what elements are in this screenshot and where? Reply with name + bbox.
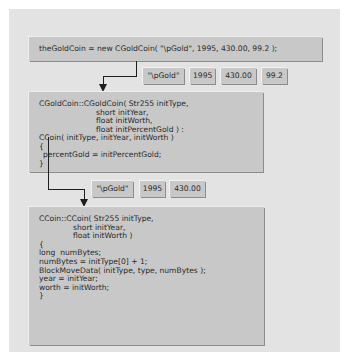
connector-line-1a — [136, 61, 137, 76]
arg-chip-year: 1995 — [140, 181, 165, 197]
code-line: } — [39, 292, 206, 301]
code-line: float initWorth ) — [39, 232, 206, 241]
arg-chip-worth: 430.00 — [221, 68, 256, 84]
arg-chip-type: "\pGold" — [92, 181, 133, 197]
code-line: } — [39, 160, 174, 169]
code-line: percentGold = initPercentGold; — [39, 151, 174, 160]
call-statement-text: theGoldCoin = new CGoldCoin( "\pGold", 1… — [39, 45, 277, 54]
arg-chip-worth: 430.00 — [170, 181, 205, 197]
connector-line-2b — [48, 189, 85, 190]
call-statement-box: theGoldCoin = new CGoldCoin( "\pGold", 1… — [29, 37, 322, 61]
ccoin-constructor-box: CCoin::CCoin( Str255 initType, short ini… — [29, 207, 264, 345]
connector-line-1c — [103, 76, 104, 84]
arrow-down-icon — [80, 199, 88, 207]
code-line: worth = initWorth; — [39, 284, 206, 293]
arrow-down-icon — [99, 84, 107, 92]
arg-chip-percent: 99.2 — [262, 68, 287, 84]
connector-line-1b — [103, 76, 137, 77]
code-line: CCoin( initType, initYear, initWorth ) — [39, 134, 174, 143]
cgoldcoin-body: CCoin( initType, initYear, initWorth ) {… — [39, 134, 174, 168]
connector-line-2c — [84, 189, 85, 199]
arg-chip-type: "\pGold" — [143, 68, 184, 84]
arg-chip-year: 1995 — [190, 68, 215, 84]
